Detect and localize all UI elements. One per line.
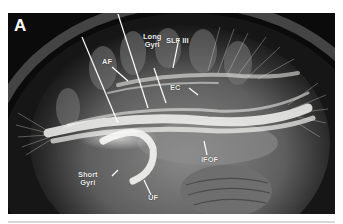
label-slf-iii: SLF III xyxy=(166,37,189,45)
label-short-gyri: Short Gyri xyxy=(78,171,98,187)
tractography-figure-panel: A AF Long Gyri SLF III EC IFOF Short Gyr… xyxy=(8,13,335,214)
label-uf: UF xyxy=(148,194,158,202)
label-ec: EC xyxy=(170,84,180,92)
panel-letter: A xyxy=(14,17,26,34)
label-af: AF xyxy=(102,58,112,66)
label-long-gyri: Long Gyri xyxy=(143,33,161,49)
bottom-divider xyxy=(8,221,335,223)
label-ifof: IFOF xyxy=(201,156,218,164)
